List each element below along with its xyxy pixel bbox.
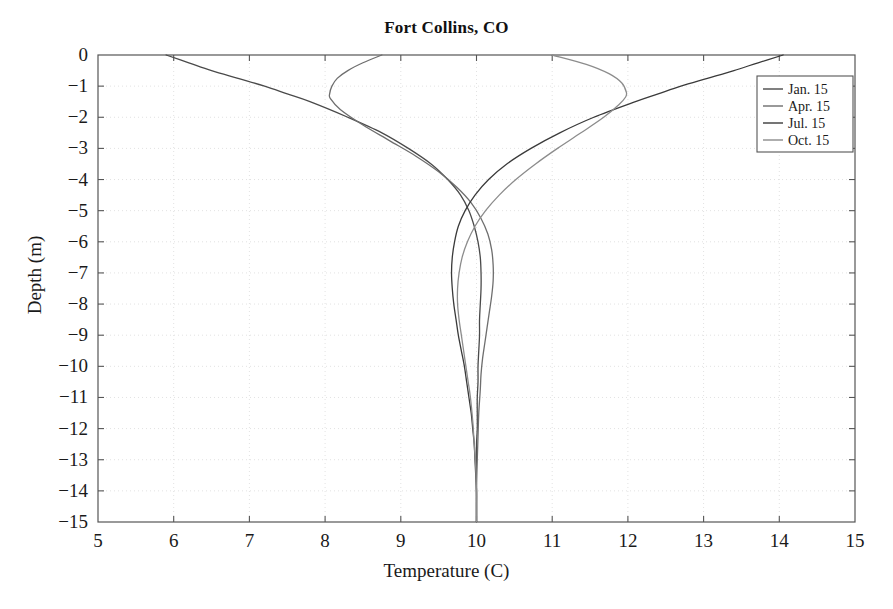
chart-legend[interactable]: Jan. 15Apr. 15Jul. 15Oct. 15 (757, 76, 853, 152)
data-series-layer (166, 55, 783, 522)
y-tick-label: −6 (68, 231, 88, 252)
x-tick-label: 15 (846, 530, 865, 551)
y-tick-label: −5 (68, 200, 88, 221)
plot-svg: 567891011121314150−1−2−3−4−5−6−7−8−9−10−… (0, 0, 893, 609)
x-tick-label: 13 (694, 530, 713, 551)
y-tick-label: −15 (58, 511, 88, 532)
figure-container: Fort Collins, CO 567891011121314150−1−2−… (0, 0, 893, 609)
tick-labels-layer: 567891011121314150−1−2−3−4−5−6−7−8−9−10−… (58, 44, 864, 551)
y-tick-label: −10 (58, 355, 88, 376)
x-tick-label: 9 (396, 530, 406, 551)
y-tick-label: −12 (58, 418, 88, 439)
y-tick-label: −7 (68, 262, 88, 283)
x-tick-label: 5 (93, 530, 103, 551)
y-tick-label: 0 (79, 44, 89, 65)
series-line-jan-15 (166, 55, 481, 522)
x-tick-label: 11 (543, 530, 561, 551)
y-tick-label: −8 (68, 293, 88, 314)
y-tick-label: −2 (68, 106, 88, 127)
y-tick-label: −3 (68, 137, 88, 158)
x-tick-label: 7 (245, 530, 255, 551)
x-tick-label: 6 (169, 530, 179, 551)
x-tick-label: 8 (320, 530, 330, 551)
y-axis-label: Depth (m) (24, 195, 46, 355)
legend-label-3: Jul. 15 (788, 116, 825, 131)
x-tick-label: 10 (467, 530, 486, 551)
y-tick-label: −1 (68, 75, 88, 96)
legend-label-1: Jan. 15 (788, 82, 828, 97)
legend-label-2: Apr. 15 (788, 99, 830, 114)
y-tick-label: −4 (68, 169, 89, 190)
x-axis-label: Temperature (C) (0, 560, 893, 582)
x-tick-label: 14 (770, 530, 790, 551)
y-tick-label: −11 (59, 386, 88, 407)
legend-label-4: Oct. 15 (788, 133, 829, 148)
series-line-jul-15 (452, 55, 784, 522)
y-tick-label: −14 (58, 480, 88, 501)
x-tick-label: 12 (618, 530, 637, 551)
series-line-oct-15 (457, 55, 626, 522)
y-tick-label: −9 (68, 324, 88, 345)
y-tick-label: −13 (58, 449, 88, 470)
series-line-apr-15 (329, 55, 493, 522)
